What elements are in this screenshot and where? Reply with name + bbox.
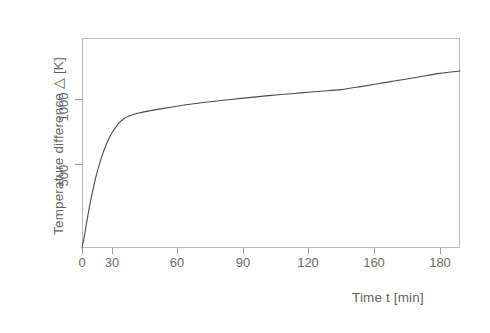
x-tick-label-180: 180 bbox=[429, 255, 451, 270]
x-tick-mark-160 bbox=[374, 248, 375, 254]
x-tick-label-120: 120 bbox=[297, 255, 319, 270]
x-axis-label: Time t [min] bbox=[352, 290, 424, 305]
curve-plot bbox=[82, 38, 460, 248]
y-tick-mark-1000 bbox=[75, 99, 82, 100]
temperature-difference-curve bbox=[82, 71, 460, 248]
y-tick-label-500: 500 bbox=[56, 145, 71, 187]
x-tick-mark-90 bbox=[243, 248, 244, 254]
x-tick-mark-180 bbox=[440, 248, 441, 254]
x-tick-mark-60 bbox=[177, 248, 178, 254]
x-tick-label-160: 160 bbox=[363, 255, 385, 270]
x-tick-label-30: 30 bbox=[105, 255, 119, 270]
chart-figure: Temperature difference △ [K] 500 1000 0 … bbox=[0, 0, 490, 333]
x-tick-label-0: 0 bbox=[78, 255, 85, 270]
y-tick-label-1000: 1000 bbox=[56, 80, 71, 122]
x-tick-mark-0 bbox=[82, 248, 83, 254]
x-tick-mark-120 bbox=[308, 248, 309, 254]
x-tick-label-90: 90 bbox=[236, 255, 250, 270]
x-tick-label-60: 60 bbox=[170, 255, 184, 270]
y-tick-mark-500 bbox=[75, 164, 82, 165]
x-tick-mark-30 bbox=[112, 248, 113, 254]
